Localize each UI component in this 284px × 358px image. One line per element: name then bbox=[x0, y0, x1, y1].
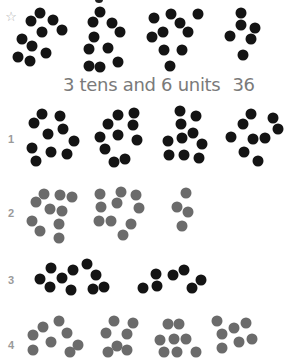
counter-dot bbox=[46, 337, 57, 348]
counter-dot bbox=[37, 109, 48, 120]
counter-dot bbox=[183, 27, 194, 38]
counter-dot bbox=[169, 334, 180, 345]
counter-dot bbox=[112, 198, 123, 209]
counter-dot bbox=[67, 192, 78, 203]
counter-dot bbox=[35, 8, 46, 19]
counter-dot bbox=[174, 319, 185, 330]
counter-dot bbox=[158, 27, 169, 38]
counter-dot bbox=[193, 9, 204, 20]
counter-dot bbox=[95, 62, 106, 73]
counter-dot bbox=[106, 216, 117, 227]
example-caption: 3 tens and 6 units36 bbox=[63, 74, 255, 95]
star-icon: ☆ bbox=[5, 10, 17, 23]
counter-dot bbox=[99, 282, 110, 293]
counter-dot bbox=[26, 16, 37, 27]
counter-dot bbox=[260, 133, 271, 144]
counter-dot bbox=[247, 334, 258, 345]
counter-dot bbox=[95, 7, 106, 18]
counter-dot bbox=[89, 32, 100, 43]
counter-dot bbox=[179, 265, 190, 276]
counter-dot bbox=[109, 316, 120, 327]
counter-dot bbox=[69, 136, 80, 147]
counter-dot bbox=[191, 347, 202, 358]
counter-dot bbox=[134, 203, 145, 214]
counter-dot bbox=[41, 48, 52, 59]
counter-dot bbox=[250, 23, 261, 34]
counter-dot bbox=[273, 124, 284, 135]
counter-dot bbox=[212, 316, 223, 327]
counter-dot bbox=[118, 230, 129, 241]
counter-dot bbox=[234, 337, 245, 348]
counter-dot bbox=[187, 283, 198, 294]
counter-dot bbox=[29, 118, 40, 129]
counter-dot bbox=[152, 281, 163, 292]
exercise-number: 3 bbox=[8, 274, 14, 286]
counter-dot bbox=[132, 135, 143, 146]
counter-dot bbox=[122, 345, 133, 356]
counter-dot bbox=[246, 34, 257, 45]
counter-dot bbox=[196, 275, 207, 286]
counter-dot bbox=[25, 56, 36, 67]
counter-dot bbox=[151, 269, 162, 280]
exercise-number: 2 bbox=[8, 207, 14, 219]
counter-dot bbox=[54, 219, 65, 230]
counter-dot bbox=[253, 156, 264, 167]
counter-dot bbox=[82, 259, 93, 270]
counter-dot bbox=[103, 43, 114, 54]
counter-dot bbox=[27, 143, 38, 154]
counter-dot bbox=[177, 133, 188, 144]
counter-dot bbox=[179, 150, 190, 161]
counter-dot bbox=[239, 147, 250, 158]
counter-dot bbox=[46, 147, 57, 158]
counter-dot bbox=[35, 274, 46, 285]
counter-dot bbox=[31, 156, 42, 167]
counter-dot bbox=[91, 270, 102, 281]
counter-dot bbox=[159, 45, 170, 56]
caption-number: 36 bbox=[232, 74, 254, 95]
exercise-number: 4 bbox=[8, 339, 14, 351]
counter-dot bbox=[246, 109, 257, 120]
counter-dot bbox=[94, 216, 105, 227]
counter-dot bbox=[109, 157, 120, 168]
counter-dot bbox=[84, 61, 95, 72]
counter-dot bbox=[101, 328, 112, 339]
counter-dot bbox=[115, 27, 126, 38]
counter-dot bbox=[147, 32, 158, 43]
counter-dot bbox=[84, 44, 95, 55]
counter-dot bbox=[128, 120, 139, 131]
counter-dot bbox=[35, 226, 46, 237]
counter-dot bbox=[54, 233, 65, 244]
counter-dot bbox=[236, 8, 247, 19]
counter-dot bbox=[129, 108, 140, 119]
counter-dot bbox=[268, 113, 279, 124]
counter-dot bbox=[43, 129, 54, 140]
counter-dot bbox=[176, 119, 187, 130]
counter-dot bbox=[177, 221, 188, 232]
exercise-number: 1 bbox=[8, 133, 14, 145]
counter-dot bbox=[57, 206, 68, 217]
counter-dot bbox=[45, 282, 56, 293]
counter-dot bbox=[236, 20, 247, 31]
counter-dot bbox=[138, 283, 149, 294]
counter-dot bbox=[68, 265, 79, 276]
counter-dot bbox=[159, 347, 170, 358]
counter-dot bbox=[62, 149, 73, 160]
counter-dot bbox=[116, 187, 127, 198]
counter-dot bbox=[95, 189, 106, 200]
counter-dot bbox=[172, 202, 183, 213]
counter-dot bbox=[131, 190, 142, 201]
counter-dot bbox=[28, 330, 39, 341]
counter-dot bbox=[65, 347, 76, 358]
counter-dot bbox=[165, 61, 176, 72]
counter-dot bbox=[181, 334, 192, 345]
counter-dot bbox=[128, 318, 139, 329]
counter-dot bbox=[175, 106, 186, 117]
counter-dot bbox=[27, 41, 38, 52]
counter-dot bbox=[163, 319, 174, 330]
counter-dot bbox=[103, 119, 114, 130]
counter-dot bbox=[238, 50, 249, 61]
counter-dot bbox=[163, 136, 174, 147]
counter-dot bbox=[225, 31, 236, 42]
counter-dot bbox=[191, 111, 202, 122]
counter-dot bbox=[57, 273, 68, 284]
